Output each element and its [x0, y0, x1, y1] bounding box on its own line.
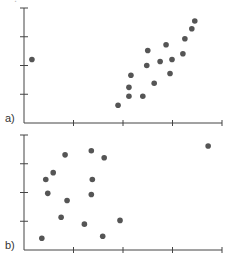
data-point [100, 233, 106, 239]
data-point [62, 152, 68, 158]
data-point [43, 177, 49, 183]
panel-label-b: b) [5, 239, 15, 251]
data-point [189, 26, 195, 32]
data-point [140, 93, 146, 99]
data-point [64, 198, 70, 204]
data-point [169, 57, 175, 63]
data-point [145, 48, 151, 54]
data-point [90, 177, 96, 183]
data-point [117, 218, 123, 224]
data-point [182, 36, 188, 42]
data-point [126, 93, 132, 99]
data-point [151, 81, 157, 87]
data-point [192, 18, 198, 24]
data-point [39, 235, 45, 241]
data-point [58, 214, 64, 220]
data-point [180, 51, 186, 57]
data-point [50, 170, 56, 176]
data-point [205, 143, 211, 149]
data-point [144, 63, 150, 69]
data-point [126, 85, 132, 91]
scatter-plots [0, 0, 225, 253]
data-point [89, 148, 95, 154]
data-point [163, 42, 169, 48]
data-point [167, 71, 173, 77]
data-point [45, 191, 51, 197]
panel-label-a: a) [5, 112, 15, 124]
data-point [115, 102, 121, 108]
data-point [89, 192, 95, 198]
data-point [29, 57, 35, 63]
data-point [128, 72, 134, 78]
data-point [82, 221, 88, 227]
data-point [101, 155, 107, 161]
data-point [157, 59, 163, 65]
